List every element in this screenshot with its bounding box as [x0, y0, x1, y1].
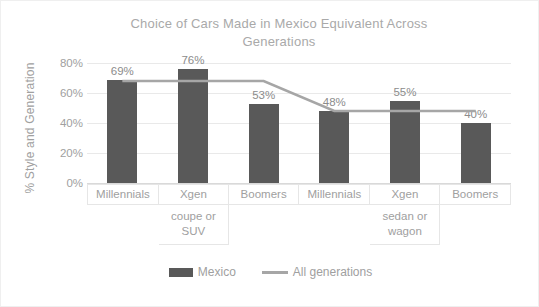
legend-item-all-generations[interactable]: All generations: [262, 265, 372, 279]
line-series-all-generations: [87, 63, 511, 183]
category-cell: Millennials: [299, 185, 370, 205]
group-spacer-cell: [228, 205, 299, 245]
group-row: coupe or SUV sedan or wagon: [88, 205, 511, 245]
category-cell: Xgen: [158, 185, 228, 205]
y-tick-label: 0%: [39, 177, 83, 189]
line-swatch-icon: [262, 271, 288, 274]
group-spacer-cell: [88, 205, 159, 245]
group-spacer-cell: [299, 205, 370, 245]
chart-title-line-1: Choice of Cars Made in Mexico Equivalent…: [79, 15, 479, 33]
chart-title: Choice of Cars Made in Mexico Equivalent…: [79, 15, 479, 51]
legend-label-all-generations: All generations: [293, 265, 372, 279]
y-tick-label: 20%: [39, 147, 83, 159]
category-cell: Boomers: [440, 185, 511, 205]
category-cell: Xgen: [370, 185, 440, 205]
y-tick-label: 80%: [39, 57, 83, 69]
legend-label-mexico: Mexico: [198, 265, 236, 279]
category-cell: Boomers: [228, 185, 299, 205]
legend-item-mexico[interactable]: Mexico: [169, 265, 236, 279]
group-label-cell: sedan or wagon: [370, 205, 440, 245]
group-spacer-cell: [440, 205, 511, 245]
bar-swatch-icon: [169, 268, 193, 277]
group-label-cell: coupe or SUV: [158, 205, 228, 245]
chart-legend: Mexico All generations: [1, 265, 539, 279]
category-row: MillennialsXgenBoomersMillennialsXgenBoo…: [88, 185, 511, 205]
x-axis-category-table: MillennialsXgenBoomersMillennialsXgenBoo…: [87, 184, 511, 245]
y-tick-label: 60%: [39, 87, 83, 99]
category-cell: Millennials: [88, 185, 159, 205]
chart-container: Choice of Cars Made in Mexico Equivalent…: [0, 0, 539, 307]
y-tick-label: 40%: [39, 117, 83, 129]
plot-area: 69%76%53%48%55%40%: [87, 63, 511, 183]
y-axis-tick-labels: 80%60%40%20%0%: [35, 63, 83, 183]
chart-title-line-2: Generations: [79, 33, 479, 51]
